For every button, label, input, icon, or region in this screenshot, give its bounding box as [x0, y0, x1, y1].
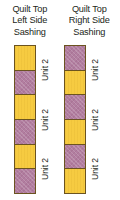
sashing-block: [65, 145, 85, 170]
unit-label-text: Unit 2: [40, 109, 50, 131]
unit-label: Unit 2: [37, 144, 53, 194]
panel-right-side-sashing: Quilt Top Right Side Sashing Unit 2 Unit…: [60, 0, 120, 200]
quilt-sashing-diagram: Quilt Top Left Side Sashing Unit 2 Unit …: [0, 0, 119, 200]
unit-label-group-left: Unit 2 Unit 2 Unit 2: [37, 45, 53, 194]
strip-wrap-left: Unit 2 Unit 2 Unit 2: [0, 45, 60, 194]
unit-label-text: Unit 2: [40, 158, 50, 180]
sashing-block: [65, 46, 85, 71]
unit-label-text: Unit 2: [90, 158, 100, 180]
sashing-block: [65, 71, 85, 96]
unit-label: Unit 2: [87, 45, 103, 95]
panel-title-left: Quilt Top Left Side Sashing: [0, 4, 60, 38]
sashing-block: [15, 120, 35, 145]
unit-label: Unit 2: [87, 95, 103, 145]
unit-label-text: Unit 2: [90, 109, 100, 131]
strip-wrap-right: Unit 2 Unit 2 Unit 2: [60, 45, 120, 194]
sashing-block: [15, 71, 35, 96]
sashing-block: [65, 95, 85, 120]
unit-label: Unit 2: [87, 144, 103, 194]
sashing-strip-left: [14, 45, 36, 194]
sashing-block: [15, 95, 35, 120]
unit-label: Unit 2: [37, 45, 53, 95]
sashing-block: [65, 120, 85, 145]
sashing-block: [15, 169, 35, 193]
unit-label: Unit 2: [37, 95, 53, 145]
unit-label-group-right: Unit 2 Unit 2 Unit 2: [87, 45, 103, 194]
sashing-block: [15, 46, 35, 71]
unit-label-text: Unit 2: [40, 59, 50, 81]
sashing-block: [15, 145, 35, 170]
panel-left-side-sashing: Quilt Top Left Side Sashing Unit 2 Unit …: [0, 0, 60, 200]
sashing-strip-right: [64, 45, 86, 194]
panel-title-right: Quilt Top Right Side Sashing: [60, 4, 120, 38]
sashing-block: [65, 169, 85, 193]
unit-label-text: Unit 2: [90, 59, 100, 81]
